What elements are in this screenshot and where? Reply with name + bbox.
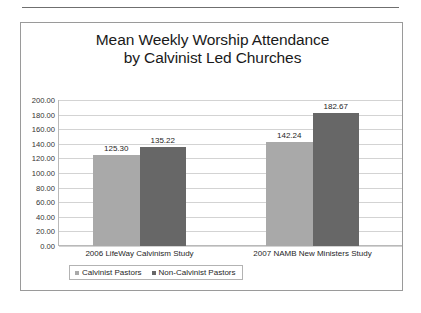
y-axis-tick-label: 180.00 bbox=[21, 110, 55, 119]
bar bbox=[93, 155, 140, 246]
y-axis-tick-label: 100.00 bbox=[21, 169, 55, 178]
y-axis-tick-label: 40.00 bbox=[21, 212, 55, 221]
legend-entry: Non-Calvinist Pastors bbox=[152, 268, 236, 277]
gridline bbox=[59, 246, 402, 247]
bar bbox=[313, 113, 360, 246]
bar-value-label: 125.30 bbox=[104, 144, 128, 153]
chart-legend: Calvinist PastorsNon-Calvinist Pastors bbox=[69, 265, 243, 280]
y-axis-tick-label: 60.00 bbox=[21, 198, 55, 207]
legend-entry: Calvinist Pastors bbox=[75, 268, 142, 277]
gridline bbox=[59, 100, 402, 101]
bar-value-label: 135.22 bbox=[151, 136, 175, 145]
y-axis-tick-label: 120.00 bbox=[21, 154, 55, 163]
legend-label: Calvinist Pastors bbox=[82, 268, 142, 277]
bar-value-label: 182.67 bbox=[324, 102, 348, 111]
bar-value-label: 142.24 bbox=[277, 131, 301, 140]
y-axis-tick-label: 200.00 bbox=[21, 96, 55, 105]
chart-title-line2: by Calvinist Led Churches bbox=[21, 49, 404, 67]
chart-figure: Mean Weekly Worship Attendance by Calvin… bbox=[20, 22, 403, 291]
category-label: 2007 NAMB New Ministers Study bbox=[253, 249, 371, 258]
y-axis-tick-label: 160.00 bbox=[21, 125, 55, 134]
bar bbox=[266, 142, 313, 246]
y-axis-tick-labels: 200.00180.00160.00140.00120.00100.0080.0… bbox=[21, 100, 55, 246]
chart-title: Mean Weekly Worship Attendance by Calvin… bbox=[21, 31, 404, 67]
legend-label: Non-Calvinist Pastors bbox=[159, 268, 236, 277]
y-axis-tick-label: 140.00 bbox=[21, 139, 55, 148]
top-horizontal-rule bbox=[22, 7, 399, 8]
category-label: 2006 LifeWay Calvinism Study bbox=[85, 249, 193, 258]
y-axis-tick-label: 80.00 bbox=[21, 183, 55, 192]
y-axis-tick-label: 0.00 bbox=[21, 242, 55, 251]
chart-title-line1: Mean Weekly Worship Attendance bbox=[96, 31, 329, 48]
bar bbox=[140, 147, 187, 246]
y-axis-tick-label: 20.00 bbox=[21, 227, 55, 236]
legend-swatch-icon bbox=[152, 271, 156, 275]
legend-swatch-icon bbox=[75, 271, 79, 275]
